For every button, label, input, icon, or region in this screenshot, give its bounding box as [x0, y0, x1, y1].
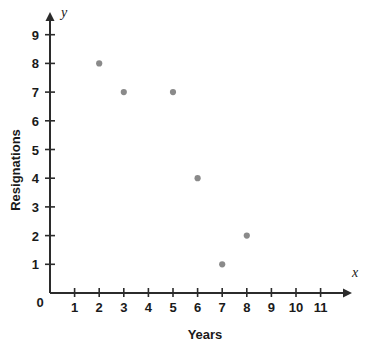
y-tick-label: 4 [32, 171, 40, 186]
data-points [96, 60, 250, 267]
data-point [170, 89, 176, 95]
y-tick-label: 8 [32, 56, 39, 71]
y-tick-label: 6 [32, 114, 39, 129]
x-tick-label: 6 [194, 300, 201, 315]
origin-label: 0 [36, 295, 43, 310]
x-tick-label: 8 [243, 300, 250, 315]
y-tick-label: 5 [32, 143, 39, 158]
y-tick-label: 3 [32, 200, 39, 215]
y-tick-label: 1 [32, 257, 39, 272]
y-axis-ticks: 123456789 [32, 28, 55, 273]
y-tick-label: 2 [32, 229, 39, 244]
data-point [219, 261, 225, 267]
y-tick-label: 9 [32, 28, 39, 43]
x-tick-label: 2 [96, 300, 103, 315]
x-tick-label: 10 [289, 300, 303, 315]
y-tick-label: 7 [32, 85, 39, 100]
x-tick-label: 9 [268, 300, 275, 315]
x-tick-label: 3 [120, 300, 127, 315]
y-axis-title: Resignations [8, 129, 23, 211]
x-tick-label: 1 [71, 300, 78, 315]
y-axis [46, 12, 55, 293]
x-axis-title: Years [188, 327, 223, 342]
x-tick-label: 7 [219, 300, 226, 315]
x-tick-label: 5 [169, 300, 176, 315]
data-point [244, 233, 250, 239]
data-point [121, 89, 127, 95]
data-point [96, 60, 102, 66]
data-point [195, 175, 201, 181]
x-tick-label: 11 [314, 300, 328, 315]
x-tick-label: 4 [145, 300, 153, 315]
scatter-plot-figure: 123456789 1234567891011 0 x y Years Resi… [0, 0, 368, 351]
plot-canvas: 123456789 1234567891011 0 x y Years Resi… [0, 0, 368, 351]
x-axis-variable-label: x [351, 265, 359, 280]
y-axis-variable-label: y [59, 5, 68, 20]
x-axis [50, 289, 352, 298]
